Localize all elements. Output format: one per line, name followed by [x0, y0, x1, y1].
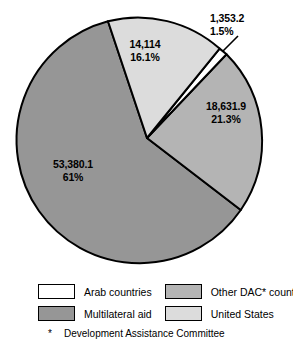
slice-label-united-states: 14,114 16.1% — [108, 38, 182, 63]
legend-swatch-united-states — [165, 306, 202, 321]
legend-label-multilateral-aid: Multilateral aid — [84, 308, 152, 320]
slice-value-united-states: 14,114 — [108, 38, 182, 51]
legend-footnote: *Development Assistance Committee — [48, 328, 225, 340]
slice-value-multilateral: 53,380.1 — [28, 158, 118, 171]
legend-label-united-states: United States — [211, 308, 274, 320]
slice-percent-arab: 1.5% — [210, 25, 290, 38]
slice-value-arab: 1,353.2 — [210, 12, 290, 25]
slice-label-other-dac: 18,631.9 21.3% — [186, 100, 266, 125]
legend-label-other-dac-countries: Other DAC* countries — [211, 286, 293, 298]
legend-item-multilateral-aid[interactable]: Multilateral aid — [38, 306, 152, 321]
legend-item-united-states[interactable]: United States — [165, 306, 293, 321]
legend-swatch-multilateral-aid — [38, 306, 75, 321]
slice-label-multilateral: 53,380.1 61% — [28, 158, 118, 183]
legend-item-arab-countries[interactable]: Arab countries — [38, 284, 152, 299]
slice-percent-united-states: 16.1% — [108, 51, 182, 64]
pie-chart: 14,114 16.1% 1,353.2 1.5% 18,631.9 21.3%… — [0, 0, 293, 275]
legend-item-other-dac-countries[interactable]: Other DAC* countries — [165, 284, 293, 299]
chart-legend: Arab countries Other DAC* countries Mult… — [0, 278, 293, 359]
slice-percent-multilateral: 61% — [28, 171, 118, 184]
arab-leader-line — [223, 36, 238, 51]
slice-value-other-dac: 18,631.9 — [186, 100, 266, 113]
legend-swatch-arab-countries — [38, 284, 75, 299]
legend-grid: Arab countries Other DAC* countries Mult… — [38, 284, 288, 321]
footnote-text: Development Assistance Committee — [64, 328, 225, 339]
slice-percent-other-dac: 21.3% — [186, 113, 266, 126]
slice-label-arab: 1,353.2 1.5% — [210, 12, 290, 37]
legend-swatch-other-dac-countries — [165, 284, 202, 299]
legend-label-arab-countries: Arab countries — [84, 286, 152, 298]
footnote-marker: * — [48, 328, 64, 340]
